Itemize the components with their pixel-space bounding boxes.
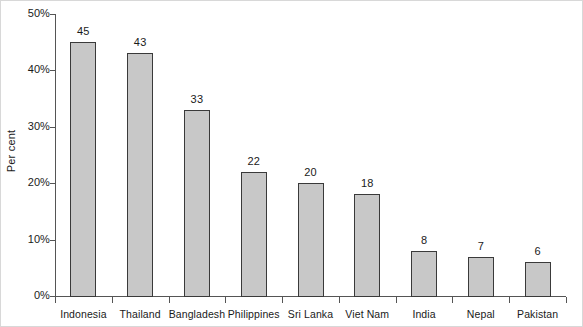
bar-value-label: 43 <box>115 36 165 48</box>
bar-value-label: 6 <box>513 245 563 257</box>
y-tick-label: 10% <box>28 233 50 245</box>
x-category-label: Sri Lanka <box>282 308 339 320</box>
bar <box>127 53 153 297</box>
x-tick-mark <box>452 297 453 303</box>
x-tick-mark <box>339 297 340 303</box>
x-tick-mark <box>55 297 56 303</box>
x-category-label: Bangladesh <box>169 308 226 320</box>
y-tick-mark <box>50 14 56 15</box>
y-axis-title-label: Per cent <box>5 130 17 173</box>
y-axis-line <box>55 14 56 297</box>
x-category-label: Thailand <box>112 308 169 320</box>
x-tick-mark <box>169 297 170 303</box>
y-tick-label: 40% <box>28 63 50 75</box>
x-tick-mark <box>225 297 226 303</box>
y-tick-mark <box>50 240 56 241</box>
x-tick-mark <box>112 297 113 303</box>
bar <box>70 42 96 297</box>
bar <box>241 172 267 297</box>
bar-chart-figure: Per cent 0%10%20%30%40%50% 4543332220188… <box>0 0 583 327</box>
y-tick-label: 30% <box>28 120 50 132</box>
y-axis-title: Per cent <box>1 1 21 301</box>
bar-value-label: 20 <box>286 166 336 178</box>
y-tick-label: 20% <box>28 176 50 188</box>
bar-value-label: 45 <box>58 25 108 37</box>
bar <box>298 183 324 297</box>
bar-value-label: 22 <box>229 155 279 167</box>
bar-value-label: 8 <box>399 234 449 246</box>
x-category-label: India <box>396 308 453 320</box>
bar <box>525 262 551 297</box>
x-tick-mark <box>396 297 397 303</box>
y-tick-mark <box>50 70 56 71</box>
x-category-label: Pakistan <box>509 308 566 320</box>
x-category-label: Viet Nam <box>339 308 396 320</box>
y-tick-mark <box>50 127 56 128</box>
x-category-label: Nepal <box>452 308 509 320</box>
y-tick-label: 50% <box>28 7 50 19</box>
x-tick-mark <box>509 297 510 303</box>
bar-value-label: 33 <box>172 93 222 105</box>
x-tick-mark <box>566 297 567 303</box>
bar-value-label: 18 <box>342 177 392 189</box>
x-tick-mark <box>282 297 283 303</box>
x-category-label: Indonesia <box>55 308 112 320</box>
bar <box>354 194 380 297</box>
bar-value-label: 7 <box>456 240 506 252</box>
bar <box>468 257 494 297</box>
x-category-label: Philippines <box>225 308 282 320</box>
bar <box>411 251 437 297</box>
y-tick-label: 0% <box>34 289 50 301</box>
bar <box>184 110 210 297</box>
y-tick-mark <box>50 183 56 184</box>
